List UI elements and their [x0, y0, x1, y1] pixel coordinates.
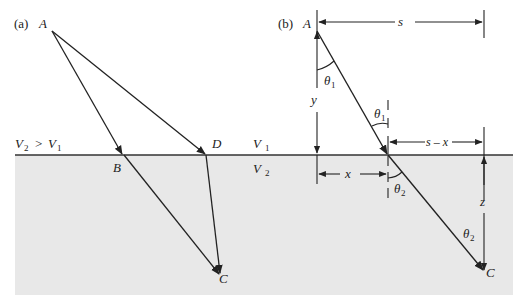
svg-text:θ: θ	[374, 106, 381, 121]
dimension-s-minus-x-label: s – x	[426, 135, 449, 149]
dimension-s-label: s	[398, 14, 403, 29]
point-a-label-b: A	[302, 16, 311, 31]
angle-theta1-upper: θ 1	[324, 73, 336, 90]
svg-text:1: 1	[265, 143, 270, 153]
svg-text:2: 2	[265, 168, 270, 178]
point-b-label: B	[113, 160, 121, 175]
svg-text:2: 2	[401, 188, 406, 198]
point-c-label-b: C	[486, 265, 495, 280]
point-d-label: D	[211, 136, 222, 151]
lower-medium-region	[15, 155, 513, 295]
svg-text:1: 1	[57, 143, 62, 153]
dimension-x-label: x	[344, 166, 351, 181]
svg-text:θ: θ	[394, 181, 401, 196]
point-c-label: C	[219, 271, 228, 286]
panel-a-label: (a)	[14, 16, 28, 31]
svg-text:1: 1	[331, 80, 336, 90]
velocity-condition: V 2 > V 1	[15, 136, 62, 153]
svg-text:V: V	[253, 136, 263, 151]
svg-text:2: 2	[24, 143, 29, 153]
svg-text:θ: θ	[324, 73, 331, 88]
svg-text:>: >	[35, 136, 42, 151]
diagram-canvas: (a) A B D C V 2 > V 1 V 1 V 2 (b) A	[0, 0, 523, 306]
point-a-label: A	[38, 16, 47, 31]
dimension-y-label: y	[309, 92, 317, 107]
medium-v1-label: V 1	[253, 136, 270, 153]
panel-b-label: (b)	[278, 16, 293, 31]
svg-text:θ: θ	[463, 226, 470, 241]
svg-text:1: 1	[381, 113, 386, 123]
dimension-z-label: z	[479, 194, 485, 209]
svg-text:2: 2	[470, 233, 475, 243]
refraction-diagram: (a) A B D C V 2 > V 1 V 1 V 2 (b) A	[0, 0, 523, 306]
angle-theta1-lower: θ 1	[374, 106, 386, 123]
